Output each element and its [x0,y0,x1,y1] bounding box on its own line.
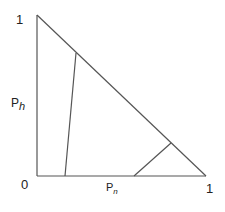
y-axis-label-main: P [11,96,19,110]
y-axis-label-sub: h [19,100,25,112]
y-axis-label: Ph [11,96,25,112]
inner-line-right [134,143,171,176]
x-right-label: 1 [206,181,213,196]
x-axis-label-sub: n [113,187,118,196]
y-top-label: 1 [16,12,23,27]
hypotenuse-line [37,15,206,176]
x-axis-label: Pn [106,181,118,196]
origin-label: 0 [21,177,28,192]
triangle-diagram: 1 0 1 Ph Pn [0,0,225,212]
x-axis-label-main: P [106,181,113,193]
inner-line-left [65,53,76,176]
